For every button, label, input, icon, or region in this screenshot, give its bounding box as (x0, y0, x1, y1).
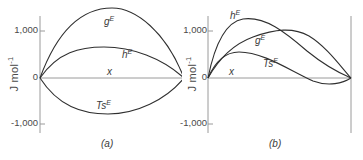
curve-label-TsE-b: TsE (263, 58, 278, 69)
curve-label-gE-a: gE (104, 16, 114, 27)
y-tick-label-neg1000-b: -1,000 (159, 117, 207, 128)
panel-caption-b: (b) (269, 138, 281, 149)
curve-label-TsE-a: TsE (96, 100, 111, 111)
panel-b: J mol-1 1,000 0 -1,000 hE gE TsE x (b) (181, 0, 363, 160)
x-axis-label-a: x (107, 66, 112, 77)
panel-a: J mol-1 1,000 0 -1,000 gE hE TsE x (a) (0, 0, 182, 160)
y-tick-label-0-b: 0 (165, 71, 207, 82)
x-axis-label-b: x (229, 66, 234, 77)
panel-caption-a: (a) (101, 138, 113, 149)
y-tick-label-1000-a: 1,000 (0, 24, 38, 35)
curve-TsE-a (40, 78, 182, 114)
curve-label-hE-a: hE (122, 49, 132, 60)
panel-b-plot (181, 0, 363, 160)
curve-label-gE-b: gE (255, 35, 265, 46)
curve-label-hE-b: hE (230, 10, 240, 21)
y-tick-label-0-a: 0 (0, 71, 38, 82)
y-tick-label-1000-b: 1,000 (165, 24, 207, 35)
y-tick-label-neg1000-a: -1,000 (0, 117, 38, 128)
excess-property-figure: J mol-1 1,000 0 -1,000 gE hE TsE x (a) (0, 0, 363, 160)
